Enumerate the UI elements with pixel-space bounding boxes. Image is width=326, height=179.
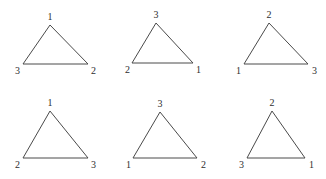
triangle-3-bottom-right-label: 3 <box>303 66 317 76</box>
triangle-diagram-1: 1 3 2 <box>0 0 108 89</box>
triangle-5-bottom-left-label: 1 <box>126 160 140 170</box>
triangle-3-bottom-left-label: 1 <box>236 66 250 76</box>
triangle-5-apex-label: 3 <box>150 99 170 109</box>
triangle-4-bottom-right-label: 3 <box>82 160 96 170</box>
triangle-diagram-4: 1 2 3 <box>0 89 108 178</box>
triangle-6-bottom-right-label: 1 <box>300 160 314 170</box>
triangle-1-bottom-right-label: 2 <box>82 66 96 76</box>
triangle-4-bottom-left-label: 2 <box>15 160 29 170</box>
triangle-diagram-6: 2 3 1 <box>216 89 324 178</box>
triangle-diagram-5: 3 1 2 <box>108 89 216 178</box>
triangle-5-bottom-right-label: 2 <box>192 160 206 170</box>
triangle-diagram-2: 3 2 1 <box>108 0 216 89</box>
triangle-6-apex-label: 2 <box>262 98 282 108</box>
triangle-2-apex-label: 3 <box>146 10 166 20</box>
triangle-figure-canvas: 1 3 2 3 2 1 2 1 3 1 2 3 3 1 2 <box>0 0 326 179</box>
triangle-3-apex-label: 2 <box>259 10 279 20</box>
triangle-1-apex-label: 1 <box>40 12 60 22</box>
triangle-2-bottom-right-label: 1 <box>187 65 201 75</box>
triangle-6-bottom-left-label: 3 <box>239 160 253 170</box>
triangle-2-bottom-left-label: 2 <box>125 65 139 75</box>
triangle-1-bottom-left-label: 3 <box>15 66 29 76</box>
triangle-4-apex-label: 1 <box>40 98 60 108</box>
triangle-diagram-3: 2 1 3 <box>216 0 324 89</box>
